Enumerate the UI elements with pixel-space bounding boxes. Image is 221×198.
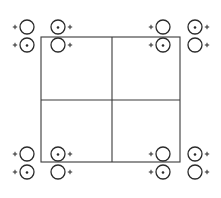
plus-icon	[149, 152, 153, 156]
plus-icon	[149, 43, 153, 47]
plus-icon	[205, 25, 209, 29]
dotted-circle-icon	[13, 165, 34, 179]
empty-circle-icon	[149, 20, 170, 34]
lattice-diagram	[0, 0, 221, 198]
plus-icon	[68, 152, 72, 156]
cluster-top-left	[13, 20, 72, 52]
plus-icon	[68, 43, 72, 47]
dotted-circle-icon	[51, 20, 72, 34]
empty-circle-icon	[13, 147, 34, 161]
dotted-circle-icon	[149, 165, 170, 179]
dotted-circle-icon	[188, 20, 209, 34]
plus-icon	[13, 152, 17, 156]
plus-icon	[68, 25, 72, 29]
dotted-circle-icon	[13, 38, 34, 52]
plus-icon	[205, 170, 209, 174]
plus-icon	[13, 170, 17, 174]
dotted-circle-icon	[188, 147, 209, 161]
plus-icon	[149, 170, 153, 174]
plus-icon	[68, 170, 72, 174]
cluster-top-right	[149, 20, 209, 52]
plus-icon	[13, 43, 17, 47]
empty-circle-icon	[188, 38, 209, 52]
grid-lines	[41, 37, 180, 162]
plus-icon	[205, 152, 209, 156]
empty-circle-icon	[149, 147, 170, 161]
dotted-circle-icon	[51, 147, 72, 161]
empty-circle-icon	[51, 165, 72, 179]
dotted-circle-icon	[149, 38, 170, 52]
cluster-bottom-right	[149, 147, 209, 179]
plus-icon	[205, 43, 209, 47]
empty-circle-icon	[51, 38, 72, 52]
empty-circle-icon	[13, 20, 34, 34]
empty-circle-icon	[188, 165, 209, 179]
plus-icon	[13, 25, 17, 29]
cluster-bottom-left	[13, 147, 72, 179]
plus-icon	[149, 25, 153, 29]
